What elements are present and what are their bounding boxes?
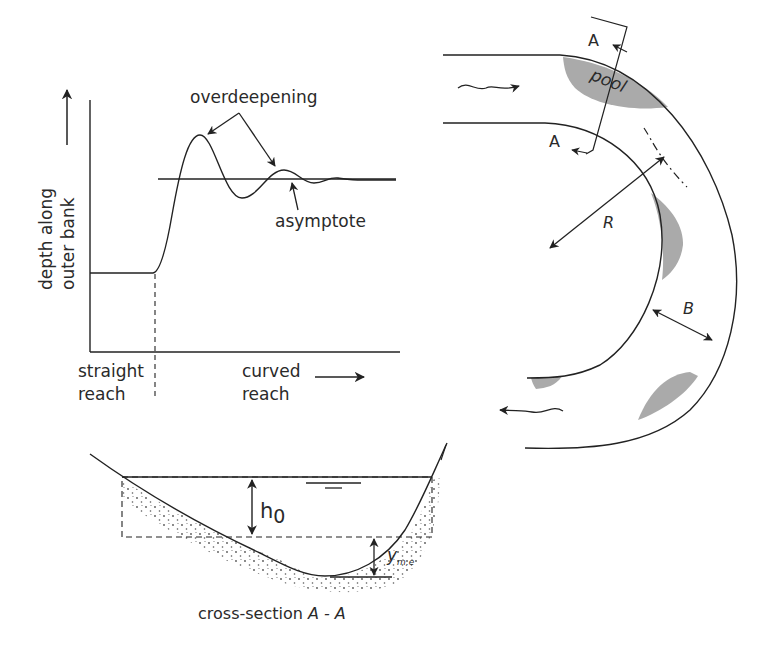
inner-bank — [443, 123, 662, 378]
pool-inner — [651, 193, 683, 280]
channel-centerline — [644, 128, 687, 187]
section-label-bottom: A — [549, 132, 560, 151]
flow-out-arrow-icon — [500, 409, 563, 413]
y-axis-label-line2: outer bank — [58, 197, 78, 290]
overdeepening-arrow-2 — [239, 113, 275, 166]
pool-lower-outer — [638, 372, 698, 420]
caption-section: A - A — [307, 604, 346, 623]
overdeepening-label: overdeepening — [190, 87, 318, 107]
curved-reach-line1: curved — [242, 361, 300, 381]
flow-in-arrow-icon — [458, 85, 519, 89]
radius-label: R — [603, 213, 614, 232]
h0-sub: 0 — [273, 505, 285, 527]
depth-curve — [90, 135, 396, 273]
radius-arrow — [550, 157, 664, 248]
ym-sub: m,e — [397, 557, 415, 567]
width-label: B — [683, 299, 694, 318]
asymptote-label: asymptote — [275, 211, 366, 231]
y-axis-label-line1: depth along — [36, 188, 56, 290]
straight-reach-line2: reach — [78, 384, 126, 404]
straight-reach-line1: straight — [78, 361, 144, 381]
overdeepening-arrow-1 — [208, 113, 239, 134]
section-arrow-bottom-icon — [572, 150, 587, 153]
cross-section-caption: cross-section A - A — [198, 604, 346, 623]
h0-label: h0 — [260, 499, 285, 527]
depth-graph: overdeepening asymptote depth along oute… — [36, 87, 400, 404]
h0-main: h — [260, 499, 273, 523]
outer-bank — [443, 55, 737, 448]
river-bend-plan: A A pool R B — [441, 17, 737, 460]
cross-section: h0 ym,e cross-section A - A — [90, 443, 447, 623]
sediment-fill — [122, 478, 440, 592]
figure-canvas: overdeepening asymptote depth along oute… — [0, 0, 763, 649]
section-label-top: A — [588, 31, 599, 50]
caption-prefix: cross-section — [198, 604, 308, 623]
asymptote-arrow — [292, 183, 298, 210]
curved-reach-line2: reach — [242, 384, 290, 404]
